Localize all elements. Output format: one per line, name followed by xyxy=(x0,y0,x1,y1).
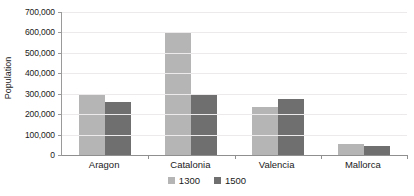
gridline xyxy=(62,94,407,95)
y-axis-tickmark xyxy=(58,12,62,13)
x-axis-tickmark xyxy=(407,155,408,159)
y-axis-title: Population xyxy=(0,0,16,156)
bar-group xyxy=(148,12,234,155)
y-axis-tickmark xyxy=(58,53,62,54)
bar-group xyxy=(321,12,407,155)
legend-swatch-icon-1500 xyxy=(214,177,221,184)
bar-valencia-1500[interactable] xyxy=(278,99,304,155)
gridline xyxy=(62,12,407,13)
gridline xyxy=(62,32,407,33)
x-axis-label-catalonia: Catalonia xyxy=(170,159,210,170)
y-axis-tick-label: 300,000 xyxy=(25,89,55,99)
bar-group xyxy=(235,12,321,155)
y-axis-tick-label: 600,000 xyxy=(25,27,55,37)
y-axis-tickmark xyxy=(58,135,62,136)
y-axis-title-label: Population xyxy=(3,57,13,100)
plot-area xyxy=(61,12,407,155)
x-axis-category-labels: AragonCataloniaValenciaMallorca xyxy=(61,159,406,173)
bar-groups xyxy=(62,12,407,155)
y-axis-tick-label: 100,000 xyxy=(25,130,55,140)
bar-mallorca-1500[interactable] xyxy=(364,146,390,155)
population-bar-chart: Population 0100,000200,000300,000400,000… xyxy=(0,0,414,196)
chart-legend: 13001500 xyxy=(0,176,414,186)
bar-mallorca-1300[interactable] xyxy=(338,144,364,155)
x-axis-label-valencia: Valencia xyxy=(259,159,295,170)
legend-label-1300: 1300 xyxy=(179,176,200,186)
y-axis-tickmark xyxy=(58,32,62,33)
y-axis-tickmark xyxy=(58,155,62,156)
bar-group xyxy=(62,12,148,155)
gridline xyxy=(62,73,407,74)
gridline xyxy=(62,53,407,54)
x-axis-line xyxy=(58,155,407,156)
y-axis-tickmark xyxy=(58,114,62,115)
y-axis-tick-label: 200,000 xyxy=(25,109,55,119)
y-axis-tick-label: 500,000 xyxy=(25,48,55,58)
bar-aragon-1300[interactable] xyxy=(79,94,105,155)
y-axis-tickmark xyxy=(58,94,62,95)
y-axis-tick-labels: 0100,000200,000300,000400,000500,000600,… xyxy=(16,0,58,160)
bar-catalonia-1500[interactable] xyxy=(191,94,217,155)
x-axis-label-mallorca: Mallorca xyxy=(345,159,381,170)
legend-label-1500: 1500 xyxy=(225,176,246,186)
gridline xyxy=(62,135,407,136)
bar-aragon-1500[interactable] xyxy=(105,102,131,155)
legend-item-1300[interactable]: 1300 xyxy=(168,176,200,186)
gridline xyxy=(62,114,407,115)
y-axis-tick-label: 0 xyxy=(50,150,55,160)
legend-swatch-icon-1300 xyxy=(168,177,175,184)
x-axis-label-aragon: Aragon xyxy=(89,159,120,170)
y-axis-tickmark xyxy=(58,73,62,74)
legend-item-1500[interactable]: 1500 xyxy=(214,176,246,186)
y-axis-tick-label: 400,000 xyxy=(25,68,55,78)
y-axis-tick-label: 700,000 xyxy=(25,7,55,17)
